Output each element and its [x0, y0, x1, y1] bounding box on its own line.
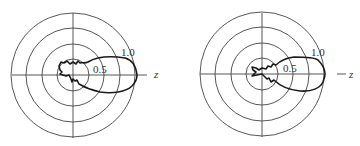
axis-label-z: z — [348, 68, 354, 80]
ring-label-0-5: 0.5 — [93, 63, 107, 75]
polar-plots-figure: 0.5 1.0 z 0.5 1.0 z — [0, 0, 360, 146]
ring-label-1-0: 1.0 — [121, 46, 135, 58]
polar-plot-right: 0.5 1.0 z — [200, 12, 354, 137]
ring-label-0-5: 0.5 — [283, 62, 297, 74]
polar-plot-left: 0.5 1.0 z — [11, 13, 159, 138]
polar-axes — [12, 13, 147, 138]
figure: 0.5 1.0 z 0.5 1.0 z — [0, 0, 360, 146]
axis-label-z: z — [153, 68, 159, 80]
ring-label-1-0: 1.0 — [311, 46, 325, 58]
